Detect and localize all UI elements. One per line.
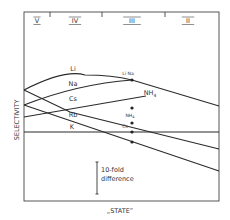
series-lines	[24, 74, 219, 171]
y-axis-label: SELECTIVITY	[13, 100, 21, 141]
state-labels: VIVIIIII	[33, 17, 194, 25]
state-label-iv: IV	[72, 17, 79, 25]
annotation-line2: difference	[101, 175, 134, 183]
state-label-v: V	[35, 17, 40, 25]
state-label-ii: II	[186, 17, 190, 25]
series-label-na: Na	[69, 80, 78, 88]
state-dividers	[50, 12, 165, 17]
data-point-marker	[130, 130, 133, 133]
series-label-rb: Rb	[69, 111, 78, 119]
data-point-marker	[130, 140, 133, 143]
scale-annotation: 10-fold difference	[96, 162, 134, 194]
data-point-marker	[130, 121, 133, 124]
data-point-marker	[130, 106, 133, 109]
marker-label: NH4	[125, 113, 135, 119]
series-label-k: K	[70, 123, 75, 131]
series-line-li	[24, 74, 219, 106]
series-line-cs	[24, 90, 219, 149]
data-markers: Li NaNH4Cs	[122, 71, 135, 144]
series-label-cs: Cs	[69, 95, 78, 103]
x-axis-label: „STATE”	[107, 207, 133, 215]
marker-label: Cs	[122, 124, 128, 129]
data-point-marker	[130, 78, 133, 81]
series-label-nh4: NH4	[144, 89, 157, 98]
series-labels: LiNaCsRbNH4K	[69, 65, 157, 131]
annotation-line1: 10-fold	[101, 166, 124, 174]
series-label-li: Li	[70, 65, 76, 73]
marker-label: Li Na	[122, 71, 134, 76]
selectivity-chart: VIVIIIII Li NaNH4Cs LiNaCsRbNH4K 10-fold…	[0, 0, 230, 220]
state-label-iii: III	[129, 17, 135, 25]
series-line-rb	[24, 105, 219, 171]
